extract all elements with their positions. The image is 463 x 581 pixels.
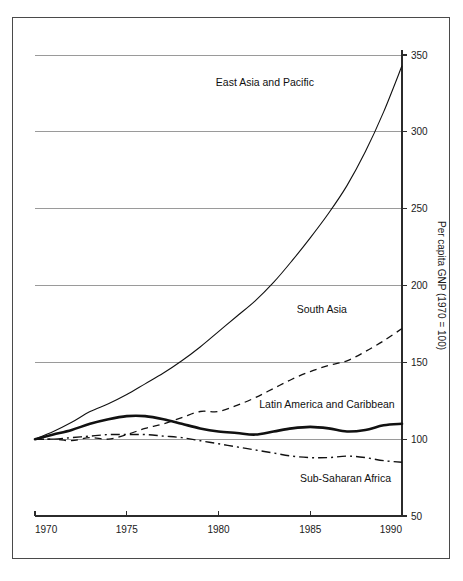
x-tick-label-1980: 1980 (207, 524, 230, 535)
series-line-latin-america-and-caribbean (35, 416, 402, 439)
y-axis-title: Per capita GNP (1970 = 100) (436, 221, 447, 350)
x-tick-label-1975: 1975 (116, 524, 139, 535)
annotation-sub-saharan-africa: Sub-Saharan Africa (300, 472, 391, 484)
y-tick-label-350: 350 (411, 50, 428, 61)
y-tick-label-250: 250 (411, 203, 428, 214)
x-tick-label-1985: 1985 (299, 524, 322, 535)
y-tick-label-150: 150 (411, 357, 428, 368)
x-axis-ticks: 19701975198019851990 (35, 511, 402, 535)
x-tick-label-1990: 1990 (380, 524, 403, 535)
axes-group (35, 50, 402, 516)
annotation-latin-america-and-caribbean: Latin America and Caribbean (259, 398, 395, 410)
y-tick-label-300: 300 (411, 126, 428, 137)
line-chart-canvas: 50100150200250300350 1970197519801985199… (0, 0, 463, 581)
series-line-sub-saharan-africa (35, 434, 402, 462)
y-tick-label-100: 100 (411, 434, 428, 445)
annotation-south-asia: South Asia (297, 303, 347, 315)
y-tick-label-50: 50 (411, 511, 423, 522)
series-annotations: East Asia and PacificSouth AsiaLatin Ame… (216, 76, 395, 484)
y-axis-title-text: Per capita GNP (1970 = 100) (436, 221, 447, 350)
y-tick-label-200: 200 (411, 280, 428, 291)
x-tick-label-1970: 1970 (35, 524, 58, 535)
gridlines-group (35, 55, 402, 439)
y-axis-ticks: 50100150200250300350 (402, 50, 428, 522)
chart-figure: 50100150200250300350 1970197519801985199… (0, 0, 463, 581)
annotation-east-asia-and-pacific: East Asia and Pacific (216, 76, 314, 88)
series-line-east-asia-and-pacific (35, 66, 402, 439)
